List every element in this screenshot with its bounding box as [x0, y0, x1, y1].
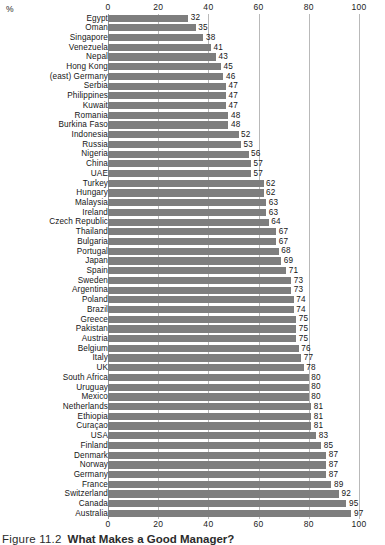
- bar: [108, 102, 226, 109]
- bar-value-label: 69: [284, 256, 294, 266]
- bar-value-label: 71: [289, 266, 299, 276]
- bar: [108, 53, 216, 60]
- bar-value-label: 38: [206, 33, 216, 43]
- category-label: Austria: [82, 334, 108, 344]
- bar: [108, 413, 311, 420]
- x-tick-label-0: 0: [105, 2, 110, 12]
- bar: [108, 306, 294, 313]
- x-tick-label-100: 100: [351, 2, 366, 12]
- chart-row: Serbia47: [0, 82, 385, 91]
- x-tick-label-60: 60: [254, 2, 264, 12]
- category-label: (east) Germany: [50, 72, 108, 82]
- chart-row: Ethiopia81: [0, 412, 385, 421]
- bar: [108, 490, 339, 497]
- bar: [108, 277, 291, 284]
- bar: [108, 83, 226, 90]
- category-label: Portugal: [77, 247, 108, 257]
- bar: [108, 364, 304, 371]
- bar-value-label: 76: [301, 344, 311, 354]
- bar: [108, 461, 326, 468]
- bar-value-label: 63: [269, 208, 279, 218]
- bar-value-label: 56: [251, 149, 261, 159]
- bar-value-label: 87: [329, 460, 339, 470]
- bar: [108, 121, 228, 128]
- figure-caption: Figure 11.2What Makes a Good Manager?: [2, 533, 234, 545]
- bar: [108, 219, 269, 226]
- bar: [108, 296, 294, 303]
- bar-value-label: 46: [226, 72, 236, 82]
- chart-row: Brazil74: [0, 305, 385, 314]
- bar-value-label: 78: [306, 363, 316, 373]
- bar-value-label: 67: [279, 237, 289, 247]
- category-label: Nepal: [86, 52, 108, 62]
- category-label: Spain: [87, 266, 108, 276]
- bar: [108, 335, 296, 342]
- bar: [108, 257, 281, 264]
- bar: [108, 354, 301, 361]
- bar-value-label: 67: [279, 227, 289, 237]
- bar-value-label: 80: [311, 392, 321, 402]
- chart-row: Nigeria56: [0, 150, 385, 159]
- bar: [108, 432, 316, 439]
- category-label: Sweden: [78, 276, 108, 286]
- bar: [108, 228, 276, 235]
- bar-value-label: 73: [294, 285, 304, 295]
- bar-value-label: 57: [254, 169, 264, 179]
- chart-row: South Africa80: [0, 373, 385, 382]
- bar-value-label: 48: [231, 120, 241, 130]
- chart-row: Japan69: [0, 257, 385, 266]
- bar: [108, 160, 251, 167]
- chart-row: China57: [0, 160, 385, 169]
- chart-row: Sweden73: [0, 276, 385, 285]
- bar: [108, 24, 196, 31]
- bar: [108, 34, 203, 41]
- x-tick-label-80: 80: [304, 519, 314, 529]
- bar-value-label: 83: [319, 431, 329, 441]
- chart-row: Italy77: [0, 354, 385, 363]
- bar-value-label: 85: [324, 441, 334, 451]
- bar: [108, 325, 296, 332]
- chart-row: Singapore38: [0, 33, 385, 42]
- category-label: Venezuela: [69, 43, 108, 53]
- category-label: South Africa: [63, 373, 108, 383]
- bar: [108, 112, 228, 119]
- category-label: Singapore: [70, 33, 108, 43]
- category-label: Hong Kong: [66, 62, 108, 72]
- bar-value-label: 97: [354, 509, 364, 519]
- bar-value-label: 63: [269, 198, 279, 208]
- category-label: Thailand: [76, 227, 108, 237]
- category-label: Australia: [75, 509, 108, 519]
- bar-chart: % 020406080100 Egypt32Oman35Singapore38V…: [0, 0, 385, 545]
- bar-value-label: 52: [241, 130, 251, 140]
- chart-row: Spain71: [0, 267, 385, 276]
- chart-row: Argentina73: [0, 286, 385, 295]
- bar-value-label: 47: [228, 101, 238, 111]
- category-label: UAE: [91, 169, 108, 179]
- bar-value-label: 64: [271, 217, 281, 227]
- category-label: Nigeria: [81, 149, 108, 159]
- bar-value-label: 57: [254, 159, 264, 169]
- chart-row: UAE57: [0, 169, 385, 178]
- bar: [108, 44, 211, 51]
- bar: [108, 267, 286, 274]
- chart-row: Russia53: [0, 140, 385, 149]
- bar-value-label: 68: [281, 246, 291, 256]
- bar-value-label: 47: [228, 81, 238, 91]
- bar-value-label: 75: [299, 334, 309, 344]
- chart-row: Austria75: [0, 334, 385, 343]
- x-tick-label-80: 80: [304, 2, 314, 12]
- chart-row: Bulgaria67: [0, 237, 385, 246]
- chart-row: Canada95: [0, 500, 385, 509]
- bar-value-label: 32: [191, 13, 201, 23]
- bar: [108, 393, 309, 400]
- chart-row: Philippines47: [0, 92, 385, 101]
- category-label: Bulgaria: [77, 237, 108, 247]
- category-label: USA: [91, 431, 108, 441]
- category-label: France: [82, 480, 108, 490]
- chart-row: Venezuela41: [0, 43, 385, 52]
- bar-value-label: 74: [296, 295, 306, 305]
- category-label: Norway: [80, 460, 108, 470]
- chart-row: Portugal68: [0, 247, 385, 256]
- category-label: Curaçao: [76, 421, 108, 431]
- bar-value-label: 47: [228, 91, 238, 101]
